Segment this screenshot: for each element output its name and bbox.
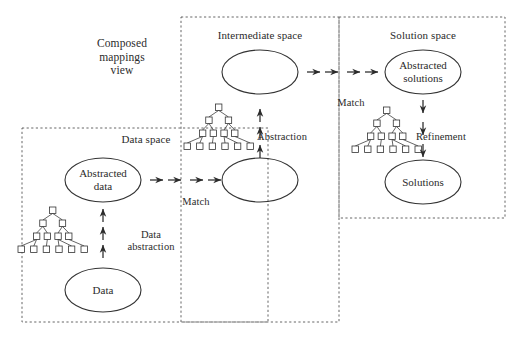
space-title-intermediate-space: Intermediate space bbox=[218, 29, 303, 42]
edge-label-match-intermediate-solution: Match bbox=[337, 97, 364, 109]
tree-edge bbox=[212, 136, 213, 143]
tree-edge bbox=[228, 123, 234, 130]
node-solutions bbox=[385, 160, 461, 204]
tree-node bbox=[31, 246, 37, 252]
edge-label-data-abstraction: Data abstraction bbox=[127, 229, 174, 254]
tree-node bbox=[206, 117, 212, 123]
tree-edge bbox=[58, 239, 72, 246]
tree-edge bbox=[43, 226, 47, 233]
tree-edge bbox=[69, 239, 84, 246]
tree-edge bbox=[396, 126, 402, 133]
tree-edge bbox=[392, 139, 406, 146]
tree-edge bbox=[219, 110, 229, 117]
tree-node bbox=[232, 130, 238, 136]
tree-node bbox=[68, 246, 74, 252]
tree-node bbox=[55, 233, 61, 239]
space-box-solution-space bbox=[339, 17, 505, 218]
tree-edge bbox=[392, 139, 393, 146]
space-box-intermediate-space bbox=[181, 17, 339, 322]
tree-edge bbox=[371, 126, 377, 133]
tree-node bbox=[221, 130, 227, 136]
tree-edge bbox=[37, 226, 43, 233]
tree-node bbox=[415, 146, 421, 152]
tree-node bbox=[389, 133, 395, 139]
tree-edge bbox=[53, 213, 63, 220]
tree-node bbox=[210, 130, 216, 136]
tree-node bbox=[18, 246, 24, 252]
space-title-data-space: Data space bbox=[122, 133, 171, 146]
diagram-canvas bbox=[0, 0, 524, 348]
tree-node bbox=[199, 130, 205, 136]
node-ellipses bbox=[65, 50, 461, 312]
tree-node bbox=[400, 133, 406, 139]
tree-node bbox=[377, 146, 383, 152]
space-boxes bbox=[22, 17, 505, 322]
tree-node bbox=[59, 220, 65, 226]
edge-label-refinement: Refinement bbox=[416, 131, 466, 143]
tree-node bbox=[234, 143, 240, 149]
tree-node bbox=[225, 117, 231, 123]
tree-node bbox=[44, 233, 50, 239]
tree-node bbox=[365, 146, 371, 152]
tree-node bbox=[197, 143, 203, 149]
tree-edge bbox=[224, 136, 238, 143]
node-abstracted-solutions bbox=[385, 50, 461, 94]
node-intermediate-abstracted bbox=[222, 158, 298, 202]
tree-node bbox=[390, 146, 396, 152]
tree-node bbox=[393, 120, 399, 126]
tree-node bbox=[367, 133, 373, 139]
tree-node bbox=[66, 233, 72, 239]
tree-node bbox=[384, 107, 390, 113]
tree-edge bbox=[209, 123, 213, 130]
tree-edge bbox=[62, 226, 68, 233]
tree-edge bbox=[377, 126, 381, 133]
tree-edge bbox=[235, 136, 250, 143]
tree-edge bbox=[377, 113, 387, 120]
composed-mappings-view-title: Composed mappings view bbox=[97, 37, 147, 78]
tree-edge bbox=[224, 136, 225, 143]
tree-node bbox=[33, 233, 39, 239]
tree-edge bbox=[203, 123, 209, 130]
tree-tree-intermediate-space bbox=[184, 104, 253, 149]
tree-node bbox=[216, 104, 222, 110]
tree-node bbox=[50, 207, 56, 213]
tree-diagrams bbox=[18, 104, 421, 252]
edge-label-match-data-intermediate: Match bbox=[182, 196, 209, 208]
tree-edge bbox=[46, 239, 47, 246]
edge-label-abstraction-intermediate: Abstraction bbox=[257, 131, 307, 143]
tree-edge bbox=[58, 226, 62, 233]
tree-tree-data-space bbox=[18, 207, 87, 252]
tree-edge bbox=[224, 123, 228, 130]
tree-node bbox=[81, 246, 87, 252]
tree-node bbox=[247, 143, 253, 149]
tree-node bbox=[378, 133, 384, 139]
space-title-solution-space: Solution space bbox=[390, 29, 456, 42]
tree-node bbox=[374, 120, 380, 126]
tree-edge bbox=[209, 110, 219, 117]
tree-node bbox=[209, 143, 215, 149]
tree-edge bbox=[58, 239, 59, 246]
tree-edge bbox=[387, 113, 397, 120]
tree-edge bbox=[380, 139, 381, 146]
tree-node bbox=[402, 146, 408, 152]
tree-node bbox=[222, 143, 228, 149]
node-data bbox=[65, 268, 141, 312]
tree-node bbox=[184, 143, 190, 149]
tree-node bbox=[40, 220, 46, 226]
tree-edge bbox=[43, 213, 53, 220]
tree-node bbox=[352, 146, 358, 152]
tree-edge bbox=[392, 126, 396, 133]
tree-node bbox=[43, 246, 49, 252]
tree-tree-solution-space bbox=[352, 107, 421, 152]
tree-node bbox=[56, 246, 62, 252]
node-intermediate-top bbox=[222, 50, 298, 94]
node-abstracted-data bbox=[65, 158, 141, 202]
